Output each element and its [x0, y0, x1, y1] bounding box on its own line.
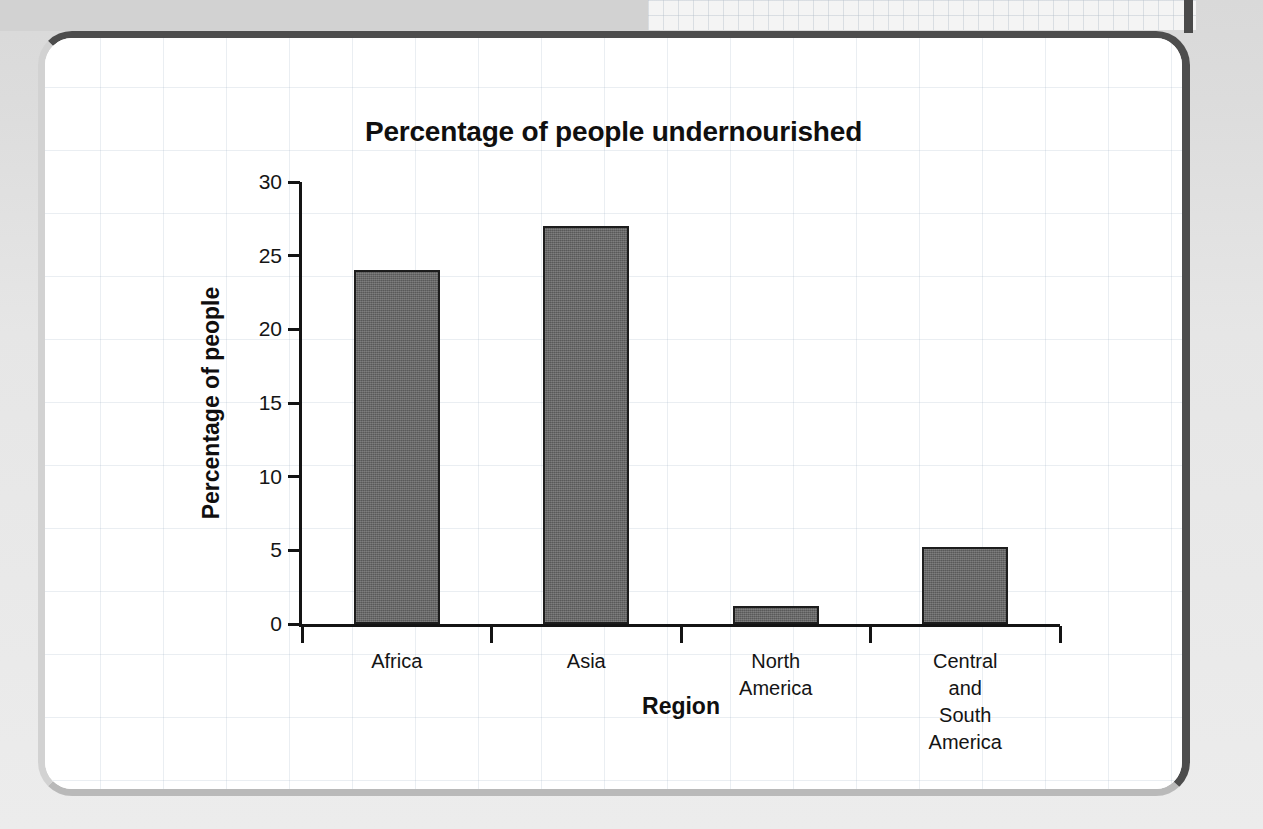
y-axis-tick-label: 5 [270, 538, 282, 562]
bar [922, 547, 1008, 624]
x-axis-tick [301, 626, 304, 643]
bar [733, 606, 819, 624]
y-axis-tick [288, 254, 300, 257]
x-axis-tick [680, 626, 683, 643]
y-axis-tick-label: 20 [259, 317, 282, 341]
bar [354, 270, 440, 624]
chart-title: Percentage of people undernourished [45, 116, 1182, 148]
page-background: Percentage of people undernourished Perc… [0, 0, 1263, 829]
x-axis-category-label: Africa [371, 648, 422, 675]
y-axis-tick [288, 328, 300, 331]
y-axis-tick [288, 181, 300, 184]
y-axis-tick [288, 475, 300, 478]
page-edge-shadow [1184, 0, 1193, 33]
x-axis-category-label: North America [739, 648, 812, 702]
y-axis-tick [288, 549, 300, 552]
y-axis-tick [288, 402, 300, 405]
x-axis-tick [1059, 626, 1062, 643]
bar-chart: Percentage of people undernourished Perc… [45, 38, 1182, 789]
bar [543, 226, 629, 624]
y-axis-tick-label: 10 [259, 465, 282, 489]
y-axis-tick-label: 25 [259, 244, 282, 268]
page-top-left-shade [0, 0, 660, 31]
y-axis-tick [288, 623, 300, 626]
y-axis-tick-label: 15 [259, 391, 282, 415]
x-axis-tick [869, 626, 872, 643]
y-axis-title: Percentage of people [198, 287, 225, 520]
x-axis-tick [490, 626, 493, 643]
x-axis-category-label: Central and South America [918, 648, 1013, 756]
y-axis-line [299, 182, 302, 627]
plot-area: 051015202530AfricaAsiaNorth AmericaCentr… [302, 182, 1060, 624]
y-axis-tick-label: 0 [270, 612, 282, 636]
y-axis-tick-label: 30 [259, 170, 282, 194]
graph-paper-sliver [648, 0, 1196, 30]
x-axis-category-label: Asia [567, 648, 606, 675]
chart-panel: Percentage of people undernourished Perc… [38, 31, 1190, 796]
